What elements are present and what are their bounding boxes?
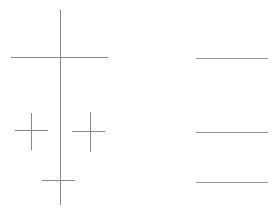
line-art-svg — [0, 0, 275, 212]
drawing-canvas — [0, 0, 275, 212]
canvas-background — [0, 0, 275, 212]
